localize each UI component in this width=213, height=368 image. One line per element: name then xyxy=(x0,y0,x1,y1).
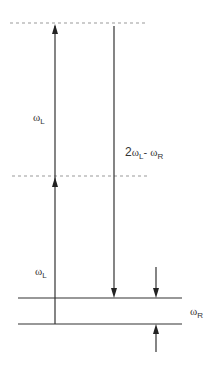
omega-symbol: ω xyxy=(132,146,139,158)
label-raman: ωR xyxy=(190,306,203,320)
pump-arrowhead-middle-icon xyxy=(52,177,58,187)
subscript-r: R xyxy=(157,152,163,161)
pump-arrowhead-upper-icon xyxy=(52,24,58,34)
raman-arrowhead-down-icon xyxy=(153,288,159,298)
factor-two: 2 xyxy=(125,145,132,159)
label-lower-pump: ωL xyxy=(35,266,47,280)
energy-level-diagram xyxy=(0,0,213,368)
subscript-l: L xyxy=(40,117,44,126)
raman-arrowhead-up-icon xyxy=(153,324,159,334)
subscript-r: R xyxy=(197,311,203,320)
label-signal: 2ωL- ωR xyxy=(125,146,163,161)
signal-arrowhead-icon xyxy=(111,288,117,298)
subscript-l: L xyxy=(42,271,46,280)
label-upper-pump: ωL xyxy=(33,112,45,126)
